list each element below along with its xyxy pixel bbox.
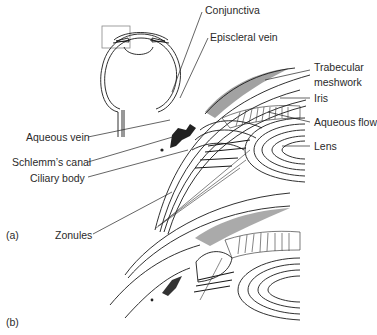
label-schlemms-canal: Schlemm’s canal (12, 156, 91, 168)
label-aqueous-flow: Aqueous flow (314, 116, 377, 128)
leader-aqueous-vein (88, 120, 170, 137)
leader-ciliary-body (88, 150, 188, 177)
panel-b-label: (b) (6, 316, 19, 328)
label-zonules: Zonules (55, 229, 92, 241)
label-aqueous-vein: Aqueous vein (26, 131, 90, 143)
panel-a-label: (a) (6, 229, 19, 241)
leader-conjunctiva (172, 12, 202, 92)
leader-aqueous-flow (268, 112, 310, 122)
label-lens: Lens (314, 140, 337, 152)
leader-episcleral-vein (180, 38, 208, 98)
label-trabecular: Trabecular (314, 61, 364, 73)
label-meshwork: meshwork (314, 76, 362, 88)
label-iris: Iris (314, 92, 328, 104)
label-episcleral-vein: Episcleral vein (210, 31, 278, 43)
label-conjunctiva: Conjunctiva (205, 4, 260, 16)
leader-lines (88, 12, 310, 234)
panel-b-cross-section (110, 193, 300, 320)
label-ciliary-body: Ciliary body (30, 172, 85, 184)
